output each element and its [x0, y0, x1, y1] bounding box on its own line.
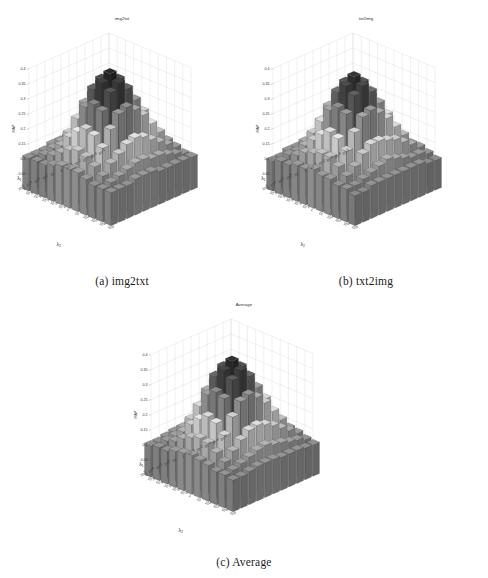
bar3d-canvas-average: 00.050.10.150.20.250.30.350.4MAP10-510-4…	[120, 292, 368, 537]
svg-text:0.35: 0.35	[263, 82, 270, 86]
svg-text:0.25: 0.25	[141, 398, 148, 402]
svg-text:-3: -3	[45, 197, 50, 202]
svg-text:0.4: 0.4	[21, 67, 26, 71]
svg-text:0.1: 0.1	[21, 157, 26, 161]
figure-three-3d-bar-charts: img2txt 00.050.10.150.20.250.30.350.4MAP…	[0, 0, 488, 578]
svg-text:3: 3	[217, 504, 220, 508]
svg-text:0.15: 0.15	[263, 142, 270, 146]
svg-text:λ₂: λ₂	[57, 241, 62, 247]
svg-text:-3: -3	[167, 483, 172, 488]
svg-text:MAP: MAP	[134, 410, 138, 418]
svg-text:0.3: 0.3	[265, 97, 270, 101]
svg-text:5: 5	[233, 511, 236, 515]
svg-text:1: 1	[310, 208, 313, 212]
plot-area-txt2img: txt2img 00.050.10.150.20.250.30.350.4MAP…	[246, 6, 486, 251]
svg-text:-2: -2	[176, 487, 181, 492]
svg-text:-1: -1	[62, 204, 67, 209]
svg-text:MAP: MAP	[256, 124, 260, 132]
svg-text:0.3: 0.3	[21, 97, 26, 101]
panel-caption-a: (a) img2txt	[2, 275, 242, 287]
bar3d-canvas-txt2img: 00.050.10.150.20.250.30.350.4MAP10-510-4…	[246, 6, 486, 251]
svg-text:0.35: 0.35	[141, 368, 148, 372]
svg-text:λ₁: λ₁	[139, 461, 144, 467]
svg-text:0.2: 0.2	[143, 413, 148, 417]
svg-text:1: 1	[188, 494, 191, 498]
svg-text:1: 1	[66, 208, 69, 212]
svg-text:λ₁: λ₁	[17, 175, 22, 181]
svg-text:-5: -5	[273, 191, 278, 196]
svg-text:4: 4	[103, 222, 106, 226]
svg-text:-2: -2	[298, 201, 303, 206]
panel-txt2img: txt2img 00.050.10.150.20.250.30.350.4MAP…	[246, 6, 486, 289]
svg-text:5: 5	[355, 225, 358, 229]
svg-text:0.1: 0.1	[143, 443, 148, 447]
svg-text:0.2: 0.2	[21, 127, 26, 131]
svg-text:2: 2	[330, 215, 333, 219]
panel-average: Average 00.050.10.150.20.250.30.350.4MAP…	[120, 292, 368, 572]
svg-text:λ₂: λ₂	[179, 527, 184, 533]
svg-text:0.35: 0.35	[19, 82, 26, 86]
svg-text:λ₂: λ₂	[301, 241, 306, 247]
svg-text:-4: -4	[281, 194, 286, 199]
svg-text:3: 3	[339, 218, 342, 222]
svg-text:0.25: 0.25	[19, 112, 26, 116]
svg-text:-4: -4	[159, 480, 164, 485]
plot-area-img2txt: img2txt 00.050.10.150.20.250.30.350.4MAP…	[2, 6, 242, 251]
svg-text:MAP: MAP	[12, 124, 16, 132]
svg-text:λ₁: λ₁	[261, 175, 266, 181]
svg-text:-5: -5	[151, 477, 156, 482]
svg-text:0: 0	[24, 187, 26, 191]
panel-caption-b: (b) txt2img	[246, 275, 486, 287]
svg-text:0.3: 0.3	[143, 383, 148, 387]
svg-text:0.1: 0.1	[265, 157, 270, 161]
svg-text:-5: -5	[29, 191, 34, 196]
svg-text:5: 5	[111, 225, 114, 229]
svg-text:-1: -1	[184, 490, 189, 495]
svg-text:4: 4	[225, 508, 228, 512]
svg-text:-4: -4	[37, 194, 42, 199]
svg-text:10: 10	[318, 211, 323, 216]
svg-text:4: 4	[347, 222, 350, 226]
svg-text:0.4: 0.4	[265, 67, 270, 71]
svg-text:2: 2	[86, 215, 89, 219]
svg-text:0.2: 0.2	[265, 127, 270, 131]
svg-text:10: 10	[74, 211, 79, 216]
svg-text:0: 0	[146, 473, 148, 477]
panel-img2txt: img2txt 00.050.10.150.20.250.30.350.4MAP…	[2, 6, 242, 289]
svg-text:0.15: 0.15	[141, 428, 148, 432]
svg-text:3: 3	[95, 218, 98, 222]
plot-area-average: Average 00.050.10.150.20.250.30.350.4MAP…	[120, 292, 368, 537]
svg-text:0.25: 0.25	[263, 112, 270, 116]
svg-text:10: 10	[196, 497, 201, 502]
svg-text:-3: -3	[289, 197, 294, 202]
svg-text:0.15: 0.15	[19, 142, 26, 146]
svg-text:2: 2	[208, 501, 211, 505]
bar3d-canvas-img2txt: 00.050.10.150.20.250.30.350.4MAP10-510-4…	[2, 6, 242, 251]
panel-caption-c: (c) Average	[120, 556, 368, 568]
svg-text:-1: -1	[306, 204, 311, 209]
svg-text:-2: -2	[54, 201, 59, 206]
svg-text:0.4: 0.4	[143, 353, 148, 357]
svg-text:0: 0	[268, 187, 270, 191]
